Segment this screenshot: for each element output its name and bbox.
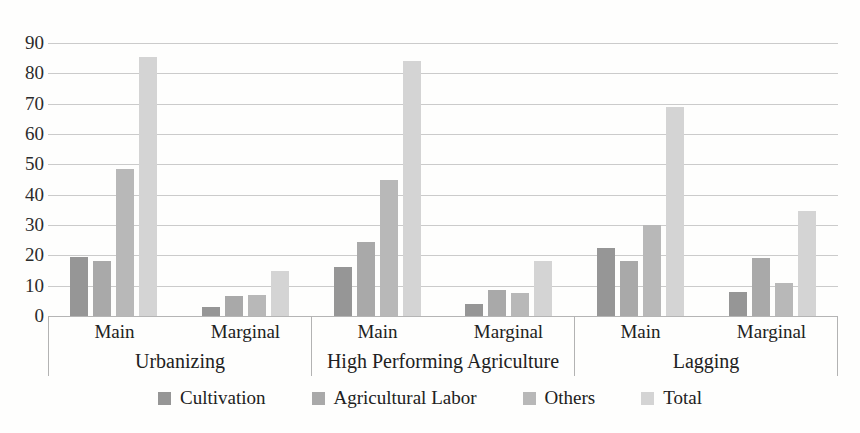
bar-agricultural-labor [357,242,375,316]
y-tick-label-20: 20 [0,244,44,266]
legend-swatch-icon [523,392,536,405]
bar-cultivation [334,267,352,316]
y-tick-label-80: 80 [0,62,44,84]
plot-area [48,0,838,316]
bar-cultivation [729,292,747,316]
y-tick-label-40: 40 [0,184,44,206]
bar-cultivation [202,307,220,316]
legend-label: Agricultural Labor [334,388,477,408]
group-label-lagging: Lagging [575,346,837,376]
legend-swatch-icon [312,392,325,405]
subcategory-label-main: Main [575,316,706,346]
bar-cultivation [465,304,483,316]
y-tick-label-90: 90 [0,32,44,54]
bar-agricultural-labor [488,290,506,316]
bar-others [775,283,793,316]
bar-cluster-marginal [443,0,575,316]
bar-total [534,261,552,316]
legend-item-others: Others [523,388,596,408]
legend-label: Total [663,388,702,408]
bar-total [798,211,816,316]
legend-item-agricultural-labor: Agricultural Labor [312,388,477,408]
bar-group-urbanizing [48,0,311,316]
bar-agricultural-labor [225,296,243,316]
y-tick-label-60: 60 [0,123,44,145]
bar-cluster-marginal [706,0,838,316]
subcategory-label-main: Main [49,316,180,346]
category-group-high-performing-agriculture: MainMarginalHigh Performing Agriculture [311,316,574,376]
bar-cultivation [70,257,88,316]
bar-group-lagging [575,0,838,316]
y-tick-label-10: 10 [0,275,44,297]
subcategory-row: MainMarginal [49,316,311,346]
subcategory-label-marginal: Marginal [706,316,837,346]
bar-others [643,225,661,316]
group-label-urbanizing: Urbanizing [49,346,311,376]
subcategory-row: MainMarginal [575,316,837,346]
bar-others [248,295,266,316]
bar-cluster-main [311,0,443,316]
bar-total [271,271,289,317]
bar-total [403,61,421,316]
category-group-urbanizing: MainMarginalUrbanizing [48,316,311,376]
legend-swatch-icon [641,392,654,405]
legend-item-cultivation: Cultivation [158,388,266,408]
subcategory-label-marginal: Marginal [443,316,574,346]
y-tick-label-30: 30 [0,214,44,236]
bar-cluster-main [575,0,707,316]
bar-others [511,293,529,316]
y-tick-label-70: 70 [0,93,44,115]
legend-label: Others [545,388,596,408]
bar-cluster-marginal [180,0,312,316]
bar-total [139,57,157,316]
legend-item-total: Total [641,388,702,408]
subcategory-row: MainMarginal [312,316,574,346]
legend: CultivationAgricultural LaborOthersTotal [0,383,860,413]
bar-agricultural-labor [620,261,638,316]
bar-cluster-main [48,0,180,316]
category-axis: MainMarginalUrbanizingMainMarginalHigh P… [48,316,838,376]
subcategory-label-main: Main [312,316,443,346]
bar-group-high-performing-agriculture [311,0,574,316]
y-tick-label-50: 50 [0,153,44,175]
legend-swatch-icon [158,392,171,405]
bar-total [666,107,684,316]
bar-agricultural-labor [93,261,111,316]
subcategory-label-marginal: Marginal [180,316,311,346]
group-label-high-performing-agriculture: High Performing Agriculture [312,346,574,376]
bar-others [380,180,398,317]
y-tick-label-0: 0 [0,305,44,327]
bar-cultivation [597,248,615,316]
legend-label: Cultivation [180,388,266,408]
grouped-bar-chart-figure: 0102030405060708090 MainMarginalUrbanizi… [0,0,860,433]
bar-agricultural-labor [752,258,770,316]
bar-others [116,169,134,316]
category-group-lagging: MainMarginalLagging [574,316,838,376]
